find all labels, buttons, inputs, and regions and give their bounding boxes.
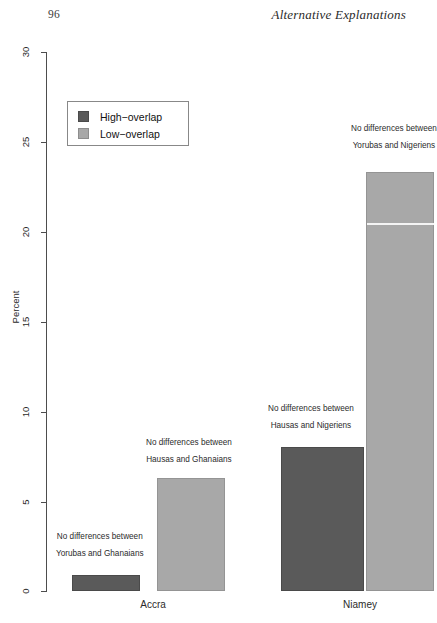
annotation-niamey-low-overlap: No differences between Yorubas and Niger… bbox=[351, 120, 437, 154]
legend-swatch-low-overlap bbox=[78, 128, 89, 139]
y-tick-25 bbox=[41, 142, 46, 143]
y-tick-label-25: 25 bbox=[16, 135, 36, 149]
y-axis-line bbox=[46, 52, 47, 592]
chart-legend: High−overlap Low−overlap bbox=[67, 101, 189, 146]
y-tick-label-10: 10 bbox=[16, 405, 36, 419]
y-tick-label-30: 30 bbox=[16, 45, 36, 59]
y-tick-15 bbox=[41, 322, 46, 323]
y-tick-label-20: 20 bbox=[16, 225, 36, 239]
legend-label-low-overlap: Low−overlap bbox=[100, 128, 160, 140]
y-tick-5 bbox=[41, 502, 46, 503]
annotation-accra-high-overlap: No differences between Yorubas and Ghana… bbox=[56, 528, 144, 562]
bar-accra-low-overlap bbox=[157, 478, 225, 591]
bar-niamey-low-overlap bbox=[366, 172, 434, 591]
y-tick-label-0: 0 bbox=[16, 584, 36, 598]
annotation-niamey-high-overlap: No differences between Hausas and Nigeri… bbox=[268, 400, 354, 434]
x-axis-label-niamey: Niamey bbox=[315, 598, 405, 612]
annotation-accra-low-overlap: No differences between Hausas and Ghanai… bbox=[146, 434, 232, 468]
legend-swatch-high-overlap bbox=[78, 111, 89, 122]
y-tick-label-5: 5 bbox=[16, 495, 36, 509]
x-axis-label-accra: Accra bbox=[108, 598, 198, 612]
bar-accra-high-overlap bbox=[72, 575, 140, 591]
legend-item-low-overlap: Low−overlap bbox=[78, 125, 160, 142]
legend-label-high-overlap: High−overlap bbox=[100, 111, 162, 123]
y-tick-0 bbox=[41, 591, 46, 592]
y-tick-20 bbox=[41, 232, 46, 233]
y-axis-title: Percent bbox=[9, 277, 23, 337]
bar-niamey-high-overlap bbox=[281, 447, 364, 591]
y-tick-30 bbox=[41, 52, 46, 53]
bar-segment-divider-niamey-low-overlap bbox=[367, 223, 434, 225]
y-tick-10 bbox=[41, 412, 46, 413]
legend-item-high-overlap: High−overlap bbox=[78, 108, 162, 125]
